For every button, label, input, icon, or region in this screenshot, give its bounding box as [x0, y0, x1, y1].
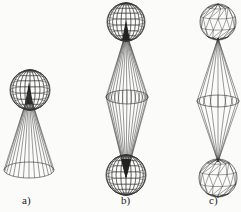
panel-b-double-cone-dumbbell — [106, 3, 148, 195]
panel-a-label: a) — [22, 194, 31, 206]
wireframe-drawing — [0, 0, 241, 212]
panel-b-label: b) — [121, 194, 130, 206]
panel-a-sphere-on-cone — [4, 70, 54, 178]
panel-c-label: c) — [209, 194, 218, 206]
panel-c-triangulated-dumbbell — [197, 4, 239, 197]
wireframe-figure: a) b) c) — [0, 0, 241, 212]
